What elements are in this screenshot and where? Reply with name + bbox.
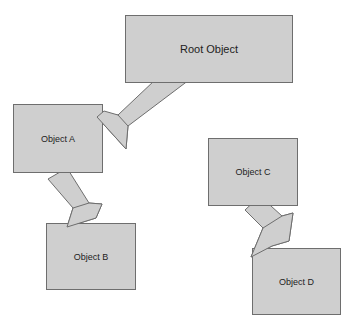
node-label: Object A	[41, 134, 75, 144]
arrow-a-to-b	[48, 168, 102, 227]
node-object-d: Object D	[252, 248, 341, 315]
node-label: Object D	[279, 277, 314, 287]
node-object-a: Object A	[13, 104, 103, 173]
node-object-b: Object B	[46, 223, 136, 290]
node-label: Root Object	[180, 43, 238, 55]
node-root-object: Root Object	[125, 15, 293, 83]
node-label: Object B	[74, 252, 109, 262]
node-object-c: Object C	[208, 138, 298, 206]
node-label: Object C	[235, 167, 270, 177]
